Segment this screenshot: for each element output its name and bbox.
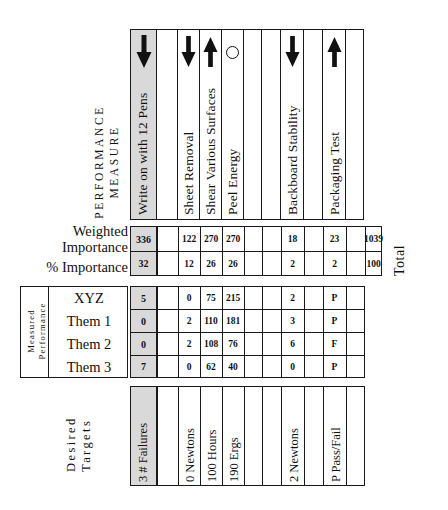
imp-divider-8 — [304, 227, 305, 275]
weighted-importance-c10: 23 — [323, 227, 346, 251]
them3-c3: 0 — [178, 356, 200, 377]
imp-divider-10 — [346, 227, 347, 275]
them1-c1: 0 — [130, 310, 157, 332]
xyz-c8: 2 — [281, 287, 304, 309]
dt-divider-2 — [178, 387, 179, 485]
desired-targets-line1: Desired — [64, 416, 78, 472]
dt-divider-5 — [244, 387, 245, 485]
them1-c8: 3 — [281, 310, 304, 332]
mp-divider-1 — [157, 287, 158, 377]
dt-divider-4 — [222, 387, 223, 485]
row-label-them2: Them 2 — [50, 333, 128, 356]
desired-target-c1: 3 # Failures — [136, 423, 151, 482]
row-label-xyz: XYZ — [50, 287, 128, 310]
performance-measure-line2: MEASURE — [108, 125, 120, 198]
percent-importance-c4: 26 — [200, 252, 222, 275]
weighted-importance-c8: 18 — [281, 227, 304, 251]
desired-target-c3: 0 Newtons — [183, 428, 198, 482]
direction-arrow-down-c1 — [131, 33, 156, 71]
them1-c5: 181 — [222, 310, 244, 332]
total-label: Total — [392, 245, 408, 276]
total-label-text: Total — [392, 245, 407, 276]
xyz-c1: 5 — [130, 287, 157, 309]
performance-measure-caption: PERFORMANCE MEASURE — [92, 92, 122, 232]
direction-arrow-up-c4 — [200, 33, 221, 71]
dt-divider-10 — [346, 387, 347, 485]
circle-glyph — [226, 46, 239, 59]
desired-target-c5-text: 190 Ergs — [227, 437, 241, 482]
weighted-importance-line2: Importance — [62, 239, 128, 255]
dt-divider-7 — [281, 387, 282, 485]
mp-divider-6 — [262, 287, 263, 377]
measured-performance-caption: Measured Performance — [26, 288, 48, 374]
header-col-divider-1 — [156, 30, 157, 219]
them2-c8: 6 — [281, 333, 304, 355]
percent-importance-c5: 26 — [222, 252, 244, 275]
them3-c5: 40 — [222, 356, 244, 377]
mp-divider-5 — [244, 287, 245, 377]
percent-importance-total: 100 — [365, 252, 382, 275]
desired-targets-line2: Targets — [79, 419, 93, 472]
them3-c8: 0 — [281, 356, 304, 377]
desired-target-c8-text: 2 Newtons — [287, 428, 301, 482]
column-header-c10: Packaging Test — [327, 132, 343, 215]
header-col-divider-10 — [345, 30, 346, 219]
mp-divider-10 — [346, 287, 347, 377]
column-header-c5: Peel Energy — [225, 149, 241, 215]
header-col-divider-8 — [303, 30, 304, 219]
xyz-c5: 215 — [222, 287, 244, 309]
dt-divider-1 — [157, 387, 158, 485]
column-header-c1-label: Write on with 12 Pens — [135, 93, 150, 215]
imp-divider-6 — [262, 227, 263, 275]
direction-arrow-up-c10 — [323, 33, 345, 71]
performance-measure-line1: PERFORMANCE — [93, 105, 105, 219]
row-label-them1-text: Them 1 — [67, 313, 112, 330]
column-header-c8: Backboard Stability — [285, 105, 301, 215]
column-header-c4-label: Shear Various Surfaces — [203, 88, 218, 215]
weighted-importance-line1: Weighted — [73, 223, 128, 239]
column-header-c8-label: Backboard Stability — [285, 105, 300, 215]
them1-c10: P — [323, 310, 346, 332]
direction-arrow-down-c3 — [178, 33, 199, 71]
header-col-divider-6 — [261, 30, 262, 219]
them2-c10: F — [323, 333, 346, 355]
dt-divider-6 — [262, 387, 263, 485]
them1-c4: 110 — [200, 310, 222, 332]
header-col-divider-5 — [243, 30, 244, 219]
column-header-c4: Shear Various Surfaces — [203, 88, 219, 215]
weighted-importance-c4: 270 — [200, 227, 222, 251]
desired-target-c8: 2 Newtons — [287, 428, 302, 482]
weighted-importance-total: 1039 — [365, 227, 382, 251]
percent-importance-c1: 32 — [130, 252, 157, 275]
weighted-importance-c3: 122 — [178, 227, 200, 251]
direction-arrow-down-c8 — [281, 33, 303, 71]
desired-targets-caption: Desired Targets — [64, 362, 94, 472]
weighted-importance-c1: 336 — [130, 227, 157, 251]
desired-target-c4: 100 Hours — [205, 430, 220, 482]
row-label-them1: Them 1 — [50, 310, 128, 333]
qfd-matrix-sheet: PERFORMANCE MEASURE Write on with 12 Pen… — [0, 0, 448, 510]
weighted-importance-label: Weighted Importance — [20, 222, 128, 256]
xyz-c10: P — [323, 287, 346, 309]
percent-importance-text: % Importance — [46, 259, 128, 276]
column-header-c5-label: Peel Energy — [225, 149, 240, 215]
xyz-c4: 75 — [200, 287, 222, 309]
column-header-c1: Write on with 12 Pens — [135, 93, 151, 215]
dt-divider-9 — [323, 387, 324, 485]
desired-target-c3-text: 0 Newtons — [183, 428, 197, 482]
dt-divider-8 — [304, 387, 305, 485]
them2-c3: 2 — [178, 333, 200, 355]
them3-c10: P — [323, 356, 346, 377]
column-header-c10-label: Packaging Test — [327, 132, 342, 215]
imp-divider-1 — [157, 227, 158, 275]
direction-circle-c5 — [222, 33, 243, 71]
percent-importance-c3: 12 — [178, 252, 200, 275]
xyz-c3: 0 — [178, 287, 200, 309]
measured-performance-line1: Measured — [26, 309, 36, 352]
them1-c3: 2 — [178, 310, 200, 332]
desired-target-c4-text: 100 Hours — [205, 430, 219, 482]
them2-c5: 76 — [222, 333, 244, 355]
row-label-xyz-text: XYZ — [74, 290, 104, 307]
dt-divider-3 — [200, 387, 201, 485]
percent-importance-c10: 2 — [323, 252, 346, 275]
